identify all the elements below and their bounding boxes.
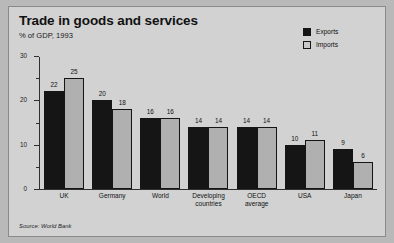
bar-value-label: 20	[99, 91, 106, 97]
bar-exports: 16	[140, 118, 160, 189]
y-tick-label-10: 10	[20, 142, 27, 148]
x-axis-label: Japan	[344, 192, 362, 200]
bar-value-label: 9	[341, 140, 345, 146]
bar-group: 1616World	[136, 57, 184, 189]
bar-value-label: 11	[311, 131, 318, 137]
plot-area: 0102030 2225UK2018Germany1616World1414De…	[39, 57, 377, 190]
bar-exports: 14	[237, 127, 257, 189]
x-axis-label: World	[152, 192, 169, 200]
page-title: Trade in goods and services	[19, 13, 319, 29]
bar-value-label: 6	[361, 153, 365, 159]
legend-label-imports: Imports	[316, 41, 338, 48]
chart-header: Trade in goods and services % of GDP, 19…	[19, 13, 319, 41]
bar-groups: 2225UK2018Germany1616World1414Developing…	[40, 57, 377, 189]
x-axis-line	[39, 189, 377, 190]
x-axis-label: Germany	[99, 192, 126, 200]
bar-group: 1414OECD average	[233, 57, 281, 189]
legend-item-imports: Imports	[303, 39, 373, 50]
x-axis-label: UK	[60, 192, 69, 200]
bar-group: 96Japan	[329, 57, 377, 189]
x-axis-label: USA	[298, 192, 311, 200]
bar-imports: 18	[112, 109, 132, 189]
bar-group: 1011USA	[281, 57, 329, 189]
bar-value-label: 16	[167, 109, 174, 115]
bar-imports: 25	[64, 78, 84, 189]
bar-value-label: 25	[71, 69, 78, 75]
chart-subtitle: % of GDP, 1993	[19, 30, 319, 41]
bar-exports: 22	[44, 91, 64, 189]
y-tick-minor-5	[36, 167, 39, 168]
bar-value-label: 14	[263, 118, 270, 124]
source-note: Source: World Bank	[19, 223, 71, 229]
bar-value-label: 18	[119, 100, 126, 106]
bar-value-label: 10	[291, 136, 298, 142]
bar-value-label: 14	[195, 118, 202, 124]
bar-group: 2018Germany	[88, 57, 136, 189]
chart-legend: Exports Imports	[303, 26, 373, 52]
y-tick-label-0: 0	[23, 186, 27, 192]
legend-label-exports: Exports	[316, 28, 338, 35]
bar-imports: 16	[160, 118, 180, 189]
legend-item-exports: Exports	[303, 26, 373, 37]
y-tick-10: 10	[34, 145, 39, 146]
bar-value-label: 22	[51, 82, 58, 88]
y-tick-minor-15	[36, 123, 39, 124]
y-tick-label-20: 20	[20, 97, 27, 103]
bar-group: 1414Developing countries	[184, 57, 232, 189]
y-tick-30: 30	[34, 56, 39, 57]
chart-figure: Trade in goods and services % of GDP, 19…	[8, 6, 386, 237]
bar-exports: 14	[188, 127, 208, 189]
y-tick-minor-25	[36, 78, 39, 79]
bar-imports: 14	[257, 127, 277, 189]
bar-imports: 14	[208, 127, 228, 189]
bar-imports: 11	[305, 140, 325, 189]
bar-exports: 9	[333, 149, 353, 189]
bar-group: 2225UK	[40, 57, 88, 189]
x-axis-label: OECD average	[245, 192, 269, 208]
bar-value-label: 14	[215, 118, 222, 124]
y-tick-label-30: 30	[20, 53, 27, 59]
x-axis-label: Developing countries	[192, 192, 225, 208]
imports-swatch-icon	[303, 41, 311, 49]
bar-exports: 20	[92, 100, 112, 189]
bar-value-label: 16	[147, 109, 154, 115]
bar-exports: 10	[285, 145, 305, 189]
exports-swatch-icon	[303, 28, 311, 36]
y-tick-20: 20	[34, 100, 39, 101]
bar-imports: 6	[353, 162, 373, 189]
bar-value-label: 14	[243, 118, 250, 124]
